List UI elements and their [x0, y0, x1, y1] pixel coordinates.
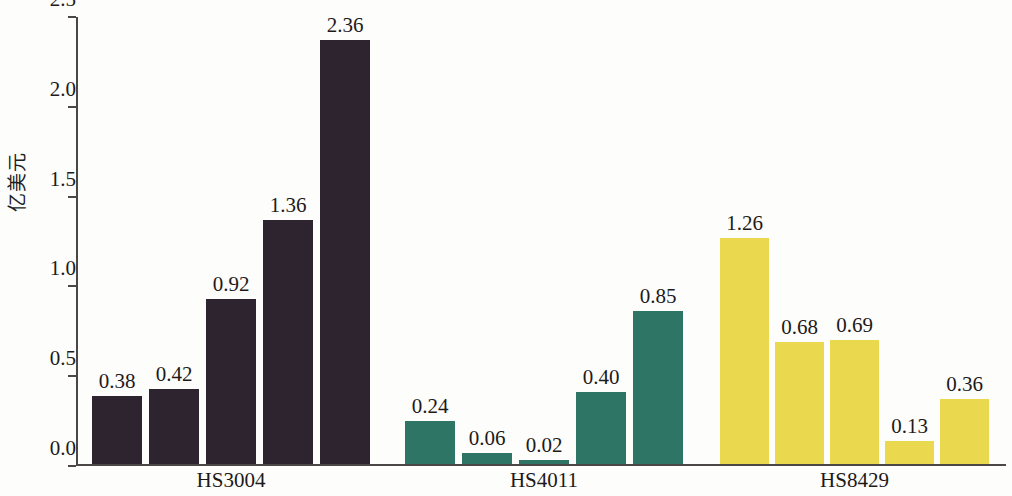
bar-HS8429-0: 1.26	[720, 238, 769, 464]
x-axis-group-label-HS3004: HS3004	[151, 470, 311, 491]
y-tick-label-1: 0.5	[24, 348, 76, 369]
bar-HS4011-3: 0.40	[576, 392, 626, 464]
bar-HS3004-1: 0.42	[149, 389, 199, 464]
bar-value-label: 0.38	[99, 371, 136, 392]
y-tick-label-2: 1.0	[24, 258, 76, 279]
bar-value-label: 0.92	[213, 274, 250, 295]
y-tick-label-5: 2.5	[24, 0, 76, 10]
bar-HS4011-0: 0.24	[405, 421, 455, 464]
bar-value-label: 0.69	[836, 315, 873, 336]
y-axis-tick-4	[68, 106, 76, 108]
bar-HS8429-2: 0.69	[830, 340, 879, 464]
x-axis-group-label-HS8429: HS8429	[775, 470, 935, 491]
bar-value-label: 0.42	[156, 364, 193, 385]
bar-value-label: 0.68	[781, 317, 818, 338]
bar-HS3004-2: 0.92	[206, 299, 256, 464]
bar-value-label: 0.13	[891, 416, 928, 437]
bar-HS3004-4: 2.36	[320, 40, 370, 464]
bar-value-label: 2.36	[327, 15, 364, 36]
bar-value-label: 1.36	[270, 195, 307, 216]
bars-layer: 0.380.420.921.362.360.240.060.020.400.85…	[76, 17, 1006, 466]
bar-HS3004-3: 1.36	[263, 220, 313, 464]
y-axis-tick-1	[68, 375, 76, 377]
bar-value-label: 0.40	[583, 367, 620, 388]
bar-HS4011-4: 0.85	[633, 311, 683, 464]
bar-value-label: 0.85	[640, 286, 677, 307]
bar-chart: 亿美元 0.0 0.5 1.0 1.5 2.0 2.5 0.380.420.92…	[0, 0, 1012, 496]
y-axis-tick-2	[68, 285, 76, 287]
x-axis-group-label-HS4011: HS4011	[464, 470, 624, 491]
y-tick-label-group: 0.0 0.5 1.0 1.5 2.0 2.5	[14, 0, 76, 449]
y-axis-tick-0	[68, 465, 76, 467]
bar-value-label: 0.36	[946, 374, 983, 395]
y-tick-label-3: 1.5	[24, 169, 76, 190]
bar-HS8429-1: 0.68	[775, 342, 824, 464]
plot-area: 0.380.420.921.362.360.240.060.020.400.85…	[76, 17, 1006, 466]
bar-HS4011-1: 0.06	[462, 453, 512, 464]
bar-value-label: 0.24	[412, 396, 449, 417]
bar-value-label: 1.26	[726, 213, 763, 234]
bar-HS8429-3: 0.13	[885, 441, 934, 464]
y-axis-tick-5	[68, 16, 76, 18]
bar-HS8429-4: 0.36	[940, 399, 989, 464]
y-axis-tick-3	[68, 196, 76, 198]
y-tick-label-0: 0.0	[24, 438, 76, 459]
bar-HS3004-0: 0.38	[92, 396, 142, 464]
bar-HS4011-2: 0.02	[519, 460, 569, 464]
bar-value-label: 0.06	[469, 428, 506, 449]
y-tick-label-4: 2.0	[24, 79, 76, 100]
bar-value-label: 0.02	[526, 435, 563, 456]
